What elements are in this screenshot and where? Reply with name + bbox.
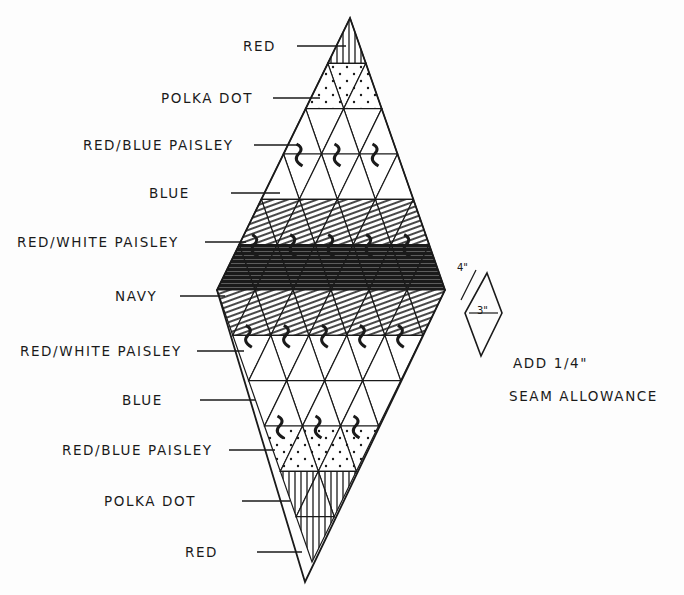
seam-note-line1: ADD 1/4" (513, 355, 588, 371)
row-label-navy: NAVY (115, 288, 157, 304)
row-label-red-blue-paisley-top: RED/BLUE PAISLEY (83, 137, 234, 153)
row-label-red-bottom: RED (185, 544, 218, 560)
template-width-dimension: 3" (477, 305, 488, 316)
row-label-red-white-paisley-top: RED/WHITE PAISLEY (17, 234, 179, 250)
row-label-red-white-paisley-bottom: RED/WHITE PAISLEY (20, 343, 182, 359)
row-label-blue-top: BLUE (149, 185, 190, 201)
quilt-diagram (0, 0, 684, 595)
template-side-dimension: 4" (457, 262, 468, 273)
row-label-red-top: RED (243, 38, 276, 54)
row-label-blue-bottom: BLUE (122, 392, 163, 408)
row-label-polka-dot-bottom: POLKA DOT (104, 493, 196, 509)
seam-note-line2: SEAM ALLOWANCE (509, 388, 658, 404)
row-label-red-blue-paisley-bottom: RED/BLUE PAISLEY (62, 442, 213, 458)
row-label-polka-dot-top: POLKA DOT (161, 90, 253, 106)
